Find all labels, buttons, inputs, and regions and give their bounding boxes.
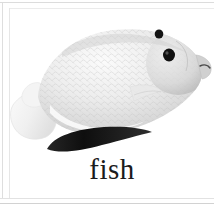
bottom-inner-rule — [0, 198, 214, 199]
image-caption: fish — [10, 152, 214, 186]
bottom-outer-rule — [0, 203, 214, 204]
head-spot-shape — [155, 29, 164, 38]
fish-image-card: fish — [0, 0, 214, 207]
top-rule — [0, 2, 214, 3]
left-outer-rule — [2, 3, 3, 198]
eye-highlight — [165, 51, 168, 54]
eye-shape — [163, 49, 175, 62]
ventral-fin-shape — [47, 127, 152, 152]
fish-illustration — [10, 9, 214, 159]
card-body: fish — [10, 9, 214, 198]
